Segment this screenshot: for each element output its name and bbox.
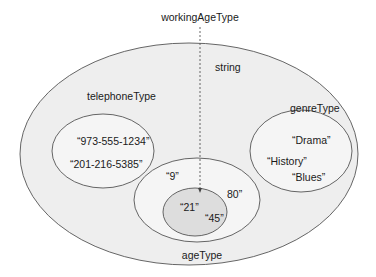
telephone-value: “201-216-5385” <box>70 158 143 170</box>
age-value: 80” <box>227 188 243 200</box>
working-age-value: “45” <box>205 212 224 224</box>
working-age-type-label: workingAgeType <box>160 11 239 23</box>
telephone-type-label: telephoneType <box>87 90 156 102</box>
genre-value: “History” <box>267 155 307 167</box>
telephone-value: “973-555-1234” <box>77 135 150 147</box>
working-age-value: “21” <box>180 201 199 213</box>
age-type-label: ageType <box>182 249 222 261</box>
genre-type-label: genreType <box>290 102 340 114</box>
string-label: string <box>215 61 241 73</box>
age-value: “9” <box>166 170 179 182</box>
genre-value: “Blues” <box>292 171 326 183</box>
genre-value: “Drama” <box>292 134 331 146</box>
type-hierarchy-diagram: workingAgeType string telephoneType genr… <box>0 0 376 277</box>
telephone-type-ellipse <box>52 114 154 188</box>
